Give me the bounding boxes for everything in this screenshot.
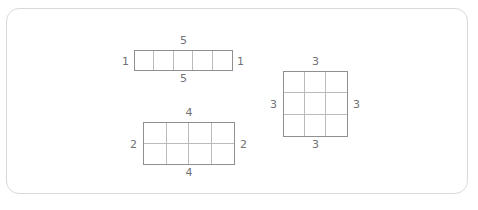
- grid-cell: [326, 72, 347, 93]
- area-model-strip: 5 5 1 1: [134, 50, 233, 71]
- grid-cell: [167, 123, 190, 144]
- strip-label-right: 1: [237, 55, 244, 66]
- grid-cell: [305, 115, 326, 136]
- grid-cell: [305, 72, 326, 93]
- strip-label-top: 5: [180, 35, 187, 46]
- grid-cell: [305, 93, 326, 114]
- grid-cell: [326, 93, 347, 114]
- grid-square: [283, 71, 348, 137]
- strip-label-left: 1: [122, 55, 129, 66]
- grid-cell: [189, 144, 212, 165]
- rectangle-label-bottom: 4: [186, 167, 193, 178]
- rectangle-label-top: 4: [186, 107, 193, 118]
- square-label-top: 3: [312, 56, 319, 67]
- grid-strip: [134, 50, 233, 71]
- grid-cell: [284, 115, 305, 136]
- grid-cell: [144, 123, 167, 144]
- grid-cell: [284, 93, 305, 114]
- grid-cell: [212, 123, 235, 144]
- grid-cell: [174, 51, 193, 70]
- area-model-square: 3 3 3 3: [283, 71, 348, 137]
- grid-cell: [326, 115, 347, 136]
- strip-label-bottom: 5: [180, 73, 187, 84]
- rectangle-label-left: 2: [130, 138, 137, 149]
- square-label-bottom: 3: [312, 139, 319, 150]
- grid-cell: [193, 51, 212, 70]
- grid-cell: [135, 51, 154, 70]
- figure-card: 5 5 1 1 4 4 2 2 3 3 3 3: [6, 8, 468, 194]
- square-label-left: 3: [270, 99, 277, 110]
- grid-cell: [167, 144, 190, 165]
- grid-cell: [212, 144, 235, 165]
- grid-cell: [144, 144, 167, 165]
- grid-cell: [189, 123, 212, 144]
- grid-cell: [284, 72, 305, 93]
- square-label-right: 3: [353, 99, 360, 110]
- grid-cell: [154, 51, 173, 70]
- grid-rectangle: [143, 122, 235, 165]
- cut-off-caption: [132, 203, 368, 210]
- rectangle-label-right: 2: [240, 138, 247, 149]
- area-model-rectangle: 4 4 2 2: [143, 122, 235, 165]
- grid-cell: [213, 51, 232, 70]
